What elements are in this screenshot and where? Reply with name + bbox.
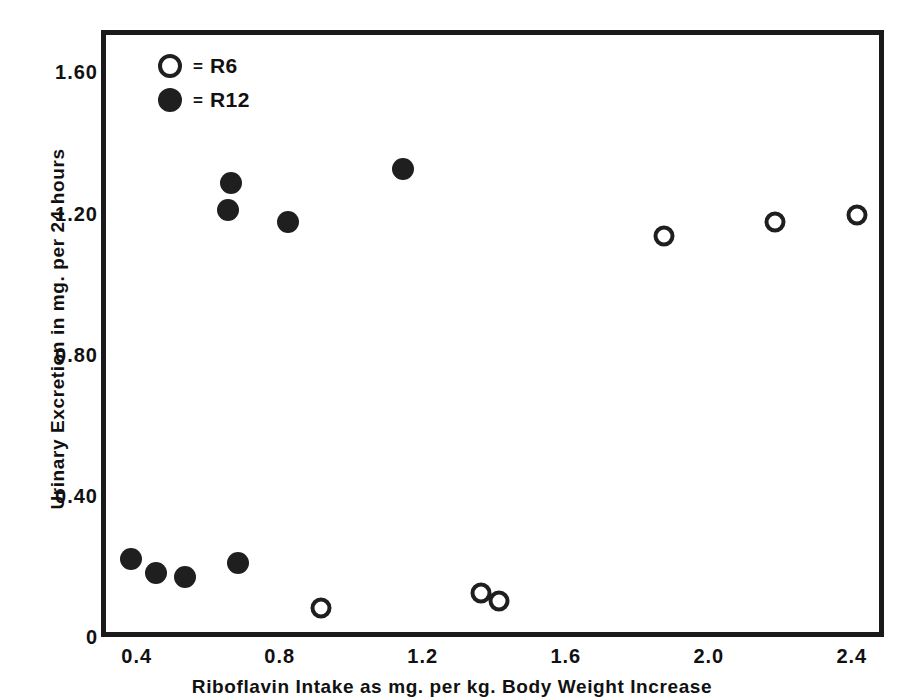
x-axis-title: Riboflavin Intake as mg. per kg. Body We… (0, 676, 904, 698)
data-point-r12 (392, 158, 414, 180)
y-axis-tick-label: 1.60 (2, 61, 98, 84)
data-point-r12 (174, 566, 196, 588)
legend-item-r12: =R12 (158, 83, 348, 117)
plot-frame: =R6=R12 (101, 30, 884, 637)
chart-legend: =R6=R12 (158, 49, 348, 117)
legend-label: R6 (210, 54, 238, 78)
data-point-r6 (653, 226, 674, 247)
y-axis-tick-label: 1.20 (2, 202, 98, 225)
x-axis-tick-label: 1.2 (407, 645, 438, 668)
x-axis-tick-label: 2.0 (693, 645, 724, 668)
data-point-r6 (489, 591, 510, 612)
legend-label: R12 (210, 88, 250, 112)
data-point-r12 (277, 211, 299, 233)
legend-separator: = (193, 92, 203, 109)
data-point-r12 (145, 562, 167, 584)
data-point-r12 (220, 172, 242, 194)
x-axis-tick-label: 1.6 (550, 645, 581, 668)
filled-circle-icon (158, 88, 182, 112)
data-point-r12 (227, 552, 249, 574)
x-axis-tick-label: 0.8 (264, 645, 295, 668)
y-axis-tick-labels: 1.601.200.800.400 (0, 0, 98, 700)
legend-separator: = (193, 58, 203, 75)
plot-area (106, 35, 879, 632)
data-point-r6 (310, 598, 331, 619)
y-axis-tick-label: 0.40 (2, 484, 98, 507)
data-point-r12 (217, 199, 239, 221)
x-axis-tick-label: 0.4 (121, 645, 152, 668)
x-axis-tick-label: 2.4 (836, 645, 867, 668)
data-point-r6 (846, 204, 867, 225)
data-point-r6 (764, 212, 785, 233)
x-axis-tick-labels: 0.40.81.21.62.02.4 (0, 645, 904, 675)
legend-item-r6: =R6 (158, 49, 348, 83)
data-point-r12 (120, 548, 142, 570)
scatter-chart-figure: Urinary Excretion in mg. per 24 hours 1.… (0, 0, 904, 700)
y-axis-tick-label: 0.80 (2, 343, 98, 366)
open-circle-icon (158, 54, 182, 78)
